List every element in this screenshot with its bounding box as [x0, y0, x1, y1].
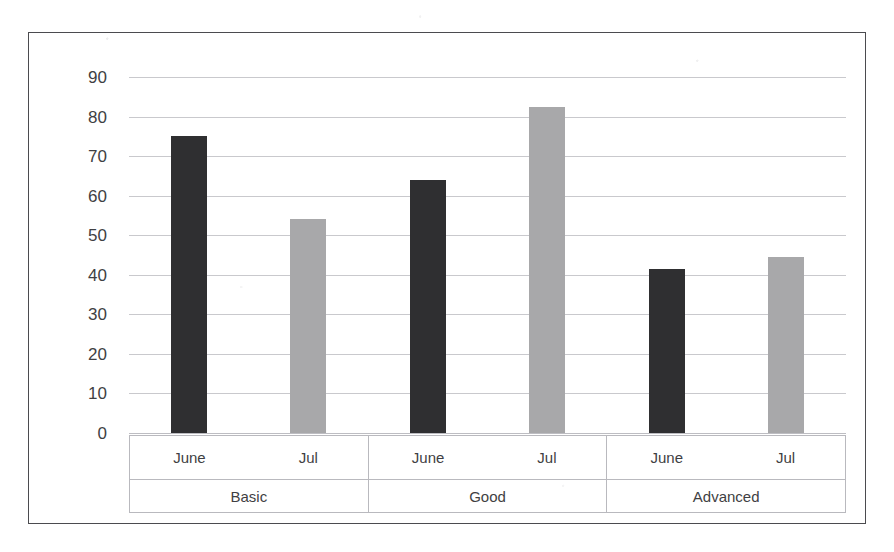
gridline-20	[129, 354, 846, 355]
gridline-90	[129, 77, 846, 78]
gridline-0	[129, 433, 846, 434]
x-axis-month-label: Jul	[249, 436, 368, 479]
bar-good-june[interactable]	[410, 180, 446, 433]
x-axis-group-cell: Advanced	[606, 480, 845, 512]
bar-basic-jul[interactable]	[290, 219, 326, 433]
x-axis-month-group: JuneJul	[130, 436, 368, 479]
y-axis-tick-label: 80	[88, 108, 107, 125]
plot-area: 9080706050403020100	[129, 77, 846, 433]
x-axis-month-label: Jul	[726, 436, 845, 479]
y-axis-tick-label: 30	[88, 306, 107, 323]
gridline-80	[129, 117, 846, 118]
x-axis-month-label: Jul	[488, 436, 607, 479]
chart-frame: 9080706050403020100 JuneJulJuneJulJuneJu…	[28, 32, 866, 524]
gridline-50	[129, 235, 846, 236]
y-axis-tick-label: 20	[88, 345, 107, 362]
x-axis-group-row: BasicGoodAdvanced	[129, 479, 846, 513]
x-axis-table: JuneJulJuneJulJuneJul BasicGoodAdvanced	[129, 435, 846, 513]
gridline-10	[129, 393, 846, 394]
x-axis-month-label: June	[130, 436, 249, 479]
y-axis-tick-label: 50	[88, 227, 107, 244]
x-axis-month-group: JuneJul	[606, 436, 845, 479]
x-axis-group-label: Good	[369, 480, 607, 512]
gridline-60	[129, 196, 846, 197]
bar-basic-june[interactable]	[171, 136, 207, 433]
y-axis-tick-label: 60	[88, 187, 107, 204]
x-axis-month-group: JuneJul	[368, 436, 607, 479]
x-axis-group-label: Basic	[130, 480, 368, 512]
x-axis-month-label: June	[369, 436, 488, 479]
x-axis-month-label: June	[607, 436, 726, 479]
bar-advanced-june[interactable]	[649, 269, 685, 433]
bar-good-jul[interactable]	[529, 107, 565, 433]
x-axis-group-label: Advanced	[607, 480, 845, 512]
gridline-40	[129, 275, 846, 276]
y-axis-tick-label: 0	[98, 425, 107, 442]
gridline-30	[129, 314, 846, 315]
x-axis-month-row: JuneJulJuneJulJuneJul	[129, 435, 846, 479]
y-axis-tick-label: 10	[88, 385, 107, 402]
x-axis-group-cell: Good	[368, 480, 607, 512]
gridline-70	[129, 156, 846, 157]
y-axis-tick-label: 90	[88, 69, 107, 86]
y-axis-tick-label: 40	[88, 266, 107, 283]
bar-advanced-jul[interactable]	[768, 257, 804, 433]
x-axis-group-cell: Basic	[130, 480, 368, 512]
y-axis-tick-label: 70	[88, 148, 107, 165]
